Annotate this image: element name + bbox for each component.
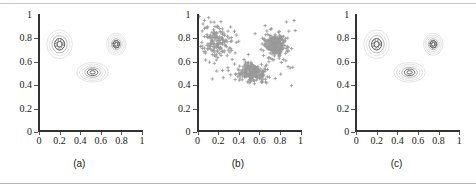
scatter-point	[220, 27, 223, 30]
y-tick-label: 1	[159, 10, 191, 20]
contour-ring	[397, 64, 423, 80]
y-tick	[351, 132, 355, 133]
scatter-point	[265, 29, 268, 32]
scatter-point-outlier	[284, 20, 287, 23]
panel-c: 00.20.40.60.8110.80.60.40.20 (c)	[317, 8, 476, 180]
y-tick	[351, 109, 355, 110]
scatter-point-outlier	[293, 29, 296, 32]
y-tick	[34, 132, 38, 133]
contour-ring	[90, 71, 95, 74]
scatter-point	[265, 68, 268, 71]
scatter-point	[263, 78, 266, 81]
y-tick-label: 0.2	[0, 104, 32, 114]
scatter-point	[232, 62, 235, 65]
scatter-point-outlier	[279, 61, 282, 64]
scatter-point	[202, 46, 205, 49]
y-tick	[193, 132, 197, 133]
y-tick	[193, 109, 197, 110]
scatter-point	[219, 20, 222, 23]
contour-ring	[430, 41, 436, 48]
scatter-point	[261, 54, 264, 57]
x-tick-label: 0.2	[53, 136, 66, 146]
scatter-point-outlier	[215, 69, 218, 72]
scatter-point-outlier	[279, 72, 282, 75]
y-axis-line-a	[38, 14, 40, 132]
scatter-point-outlier	[289, 84, 292, 87]
y-tick-label: 0.2	[159, 104, 191, 114]
scatter-point	[200, 41, 203, 44]
y-tick	[34, 85, 38, 86]
scatter-point-outlier	[273, 77, 276, 80]
contour-ring	[87, 69, 97, 76]
y-tick-label: 0.4	[159, 80, 191, 90]
scatter-point-outlier	[267, 76, 270, 79]
y-tick	[193, 38, 197, 39]
scatter-point	[200, 29, 203, 32]
scatter-point	[234, 33, 237, 36]
scatter-point	[210, 53, 213, 56]
scatter-point-outlier	[229, 73, 232, 76]
scatter-point-outlier	[246, 53, 249, 56]
contour-ring	[79, 64, 105, 80]
y-tick-label: 0.8	[317, 33, 349, 43]
figure-container: 00.20.40.60.8110.80.60.40.20 (a) 00.20.4…	[0, 8, 476, 180]
x-tick-label: 0	[37, 136, 42, 146]
scatter-point	[205, 47, 208, 50]
y-tick-label: 1	[317, 10, 349, 20]
y-axis-line-b	[197, 14, 199, 132]
panel-caption-b: (b)	[159, 158, 318, 169]
y-axis-line-c	[355, 14, 357, 132]
scatter-point-outlier	[291, 66, 294, 69]
scatter-point	[226, 29, 229, 32]
scatter-point	[209, 20, 212, 23]
scatter-point	[277, 30, 280, 33]
scatter-point	[207, 61, 210, 64]
x-tick-label: 0.4	[233, 136, 246, 146]
scatter-point	[276, 30, 279, 33]
x-tick-label: 1	[140, 136, 145, 146]
scatter-point-outlier	[232, 30, 235, 33]
scatter-point	[201, 47, 204, 50]
x-tick-label: 1	[298, 136, 303, 146]
y-tick-label: 1	[0, 10, 32, 20]
scatter-point	[252, 82, 255, 85]
scatter-point	[237, 79, 240, 82]
scatter-point	[290, 47, 293, 50]
scatter-point-outlier	[292, 19, 295, 22]
contour-ring	[367, 33, 387, 56]
y-tick-label: 0.8	[159, 33, 191, 43]
y-tick-label: 0	[0, 127, 32, 137]
scatter-point-outlier	[210, 77, 213, 80]
scatter-point-outlier	[207, 16, 210, 19]
scatter-point	[233, 78, 236, 81]
y-tick-label: 0.4	[0, 80, 32, 90]
scatter-point	[202, 35, 205, 38]
y-tick	[351, 38, 355, 39]
x-tick-label: 0	[195, 136, 200, 146]
contour-ring	[405, 69, 415, 76]
scatter-point-outlier	[253, 32, 256, 35]
scatter-point	[225, 54, 228, 57]
x-tick-label: 0.6	[412, 136, 425, 146]
scatter-point	[238, 64, 241, 67]
scatter-point-outlier	[226, 66, 229, 69]
y-tick	[193, 85, 197, 86]
x-tick-label: 0	[354, 136, 359, 146]
scatter-point-outlier	[202, 19, 205, 22]
x-axis-line-b	[197, 130, 302, 132]
x-tick-label: 0.8	[432, 136, 445, 146]
panel-caption-c: (c)	[317, 158, 476, 169]
y-tick-label: 0.6	[317, 57, 349, 67]
top-divider	[0, 3, 476, 4]
contour-ring	[407, 71, 412, 74]
panel-b: 00.20.40.60.8110.80.60.40.20 (b)	[159, 8, 318, 180]
x-tick-label: 0.4	[74, 136, 87, 146]
scatter-point	[265, 75, 268, 78]
x-axis-line-c	[355, 130, 460, 132]
scatter-point-outlier	[221, 76, 224, 79]
contour-ring	[49, 33, 69, 56]
y-tick	[34, 38, 38, 39]
y-tick-label: 0.4	[317, 80, 349, 90]
x-tick-label: 0.8	[274, 136, 287, 146]
y-tick-label: 0.6	[0, 57, 32, 67]
